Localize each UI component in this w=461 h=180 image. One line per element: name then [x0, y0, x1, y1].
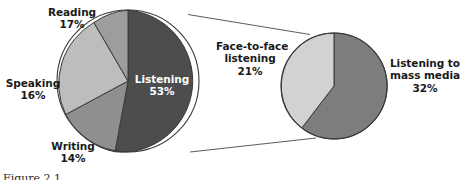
label-face-to-face-line2: listening	[224, 52, 275, 64]
label-listening-pct: 53%	[131, 85, 193, 97]
label-reading-name: Reading	[48, 6, 96, 18]
figure-caption: Figure 2.1	[3, 172, 458, 180]
label-speaking: Speaking 16%	[2, 77, 64, 102]
connector-line-bottom	[190, 138, 316, 152]
label-reading-pct: 17%	[38, 18, 106, 30]
label-listening-name: Listening	[135, 73, 189, 85]
label-face-to-face-pct: 21%	[216, 65, 284, 77]
figure-container: Reading 17% Speaking 16% Writing 14% Lis…	[0, 0, 461, 180]
label-writing-pct: 14%	[40, 152, 106, 164]
label-writing: Writing 14%	[40, 140, 106, 165]
label-face-to-face-line1: Face-to-face	[216, 40, 288, 52]
label-face-to-face-listening: Face-to-face listening 21%	[216, 40, 284, 77]
label-mass-media-line2: mass media	[390, 69, 460, 81]
label-reading: Reading 17%	[38, 6, 106, 31]
label-mass-media-line1: Listening to	[390, 57, 460, 69]
label-speaking-pct: 16%	[2, 89, 64, 101]
label-listening: Listening 53%	[131, 73, 193, 98]
label-mass-media-pct: 32%	[389, 82, 461, 94]
right-pie-chart	[281, 33, 387, 139]
label-writing-name: Writing	[51, 140, 94, 152]
label-mass-media-listening: Listening to mass media 32%	[389, 57, 461, 94]
connector-line-top	[188, 15, 310, 35]
label-speaking-name: Speaking	[6, 77, 60, 89]
